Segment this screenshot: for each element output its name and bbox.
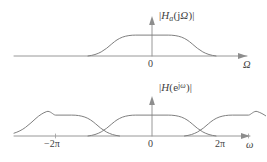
- top-axis-label-capital-omega: Ω: [243, 60, 251, 71]
- top-label-close-bar: |: [192, 9, 194, 21]
- bottom-tick-label-neg-2pi: −2π: [44, 139, 60, 149]
- replica-curve-pos-2pi: [185, 111, 267, 136]
- bottom-label-close-bar: |: [190, 81, 192, 93]
- bottom-panel-group: [14, 96, 266, 139]
- figure-canvas: [0, 0, 266, 162]
- bottom-tick-label-pos-2pi: 2π: [215, 139, 225, 149]
- top-panel-group: [14, 16, 247, 59]
- signal-processing-figure: |Ha(jΩ)| 0 Ω |H(ejω)| 0 −2π 2π ω: [0, 0, 266, 162]
- bottom-origin-label: 0: [148, 139, 153, 149]
- replica-curve-neg-2pi: [14, 111, 120, 136]
- top-origin-label: 0: [148, 59, 153, 69]
- top-response-label: |Ha(jΩ)|: [159, 10, 194, 23]
- bottom-vertical-axis-arrowhead: [149, 96, 155, 105]
- top-vertical-axis-arrowhead: [149, 16, 155, 25]
- bottom-axis-label-lowercase-omega: ω: [246, 140, 254, 151]
- bottom-response-label: |H(ejω)|: [159, 82, 192, 93]
